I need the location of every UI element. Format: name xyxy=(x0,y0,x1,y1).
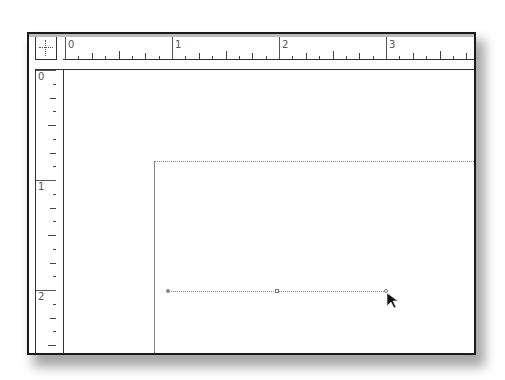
ruler-label: 3 xyxy=(389,39,395,50)
pasteboard[interactable] xyxy=(64,70,474,353)
ruler-minor-tick xyxy=(426,56,427,59)
ruler-minor-tick xyxy=(239,56,240,59)
ruler-minor-tick xyxy=(266,56,267,59)
ruler-minor-tick xyxy=(119,51,120,59)
ruler-minor-tick xyxy=(359,53,360,59)
arrow-cursor-icon xyxy=(385,291,401,309)
ruler-minor-tick xyxy=(226,51,227,59)
crosshair-icon xyxy=(39,47,53,48)
ruler-major-tick xyxy=(172,37,173,59)
ruler-major-tick xyxy=(65,37,66,59)
ruler-label: 2 xyxy=(282,39,288,50)
ruler-minor-tick xyxy=(453,56,454,59)
horizontal-ruler[interactable]: 0123 xyxy=(63,37,474,60)
ruler-minor-tick xyxy=(306,53,307,59)
ruler-minor-tick xyxy=(333,51,334,59)
ruler-minor-tick xyxy=(199,53,200,59)
ruler-label: 2 xyxy=(38,291,44,302)
ruler-origin-corner[interactable] xyxy=(35,37,57,60)
ruler-minor-tick xyxy=(440,51,441,59)
line-start-anchor[interactable] xyxy=(166,289,170,293)
document-window: 0123 012 xyxy=(27,32,476,355)
document-page[interactable] xyxy=(154,161,476,355)
ruler-label: 1 xyxy=(38,181,44,192)
ruler-minor-tick xyxy=(48,345,56,346)
ruler-minor-tick xyxy=(48,235,56,236)
ruler-minor-tick xyxy=(92,53,93,59)
ruler-minor-tick xyxy=(399,56,400,59)
ruler-gap-horizontal xyxy=(35,60,474,70)
ruler-label: 1 xyxy=(175,39,181,50)
ruler-minor-tick xyxy=(105,56,106,59)
ruler-minor-tick xyxy=(346,56,347,59)
ruler-label: 0 xyxy=(68,39,74,50)
ruler-minor-tick xyxy=(185,56,186,59)
ruler-gap-vertical xyxy=(56,70,64,353)
ruler-major-tick xyxy=(386,37,387,59)
vertical-ruler[interactable]: 012 xyxy=(35,70,57,353)
crosshair-icon-vertical xyxy=(45,40,46,56)
ruler-minor-tick xyxy=(78,56,79,59)
ruler-minor-tick xyxy=(319,56,320,59)
ruler-major-tick xyxy=(279,37,280,59)
ruler-minor-tick xyxy=(48,125,56,126)
ruler-minor-tick xyxy=(292,56,293,59)
ruler-minor-tick xyxy=(413,53,414,59)
ruler-minor-tick xyxy=(252,53,253,59)
ruler-minor-tick xyxy=(132,56,133,59)
ruler-minor-tick xyxy=(159,56,160,59)
ruler-minor-tick xyxy=(373,56,374,59)
ruler-minor-tick xyxy=(212,56,213,59)
ruler-minor-tick xyxy=(145,53,146,59)
ruler-label: 0 xyxy=(38,71,44,82)
line-midpoint-anchor[interactable] xyxy=(275,289,279,293)
ruler-minor-tick xyxy=(466,53,467,59)
